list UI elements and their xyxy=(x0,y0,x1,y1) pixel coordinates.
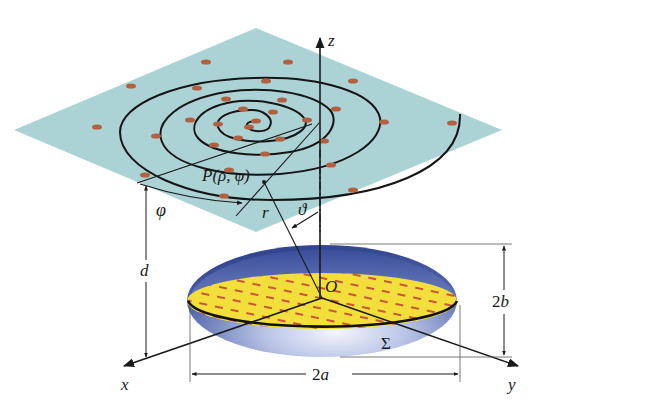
sigma-label: Σ xyxy=(381,334,391,353)
x-axis-label: x xyxy=(120,375,129,394)
point-p-marker xyxy=(262,180,266,184)
point-p-label: P(ρ, φ) xyxy=(201,166,250,185)
observation-plane xyxy=(14,28,502,232)
section-sigma-surface xyxy=(187,273,457,329)
phi-label: φ xyxy=(156,200,166,220)
origin-label: O xyxy=(325,277,337,296)
ellipsoid xyxy=(187,245,457,357)
d-label: d xyxy=(140,261,149,280)
2b-label: 2b xyxy=(492,292,509,311)
y-axis-label: y xyxy=(506,375,516,394)
z-axis-label: z xyxy=(327,31,335,50)
spiral-over-ellipsoid-diagram: z x y O Σ φ ϑ r P(ρ, φ) d 2a 2b xyxy=(0,0,654,410)
r-label: r xyxy=(262,203,269,222)
2a-label: 2a xyxy=(312,365,329,384)
